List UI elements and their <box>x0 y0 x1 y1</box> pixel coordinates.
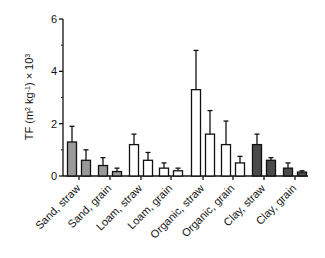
y-axis-title-text: TF (m2 kg-1) × 103 <box>23 54 35 141</box>
bar-chart: 0246 Sand, strawSand, grainLoam, strawLo… <box>0 0 325 258</box>
bar <box>160 168 169 176</box>
y-tick-label: 0 <box>51 170 57 182</box>
bar <box>130 145 139 176</box>
x-tick-label: Organic, grain <box>179 182 236 239</box>
y-tick-label: 6 <box>51 13 57 25</box>
bars <box>68 50 307 176</box>
bar <box>192 90 201 176</box>
bar <box>267 160 276 176</box>
bar <box>99 166 108 176</box>
bar <box>206 134 215 176</box>
y-axis-title: TF (m2 kg-1) × 103 <box>23 54 35 141</box>
bar <box>284 168 293 176</box>
bar <box>144 160 153 176</box>
bar <box>236 163 245 176</box>
bar <box>222 145 231 176</box>
bar <box>253 145 262 176</box>
bar <box>298 172 307 176</box>
y-tick-label: 2 <box>51 118 57 130</box>
bar <box>113 172 122 176</box>
y-axis: 0246 <box>51 13 63 182</box>
bar <box>82 160 91 176</box>
bar <box>68 142 77 176</box>
x-axis: Sand, strawSand, grainLoam, strawLoam, g… <box>33 176 308 241</box>
bar <box>174 171 183 176</box>
y-tick-label: 4 <box>51 65 57 77</box>
